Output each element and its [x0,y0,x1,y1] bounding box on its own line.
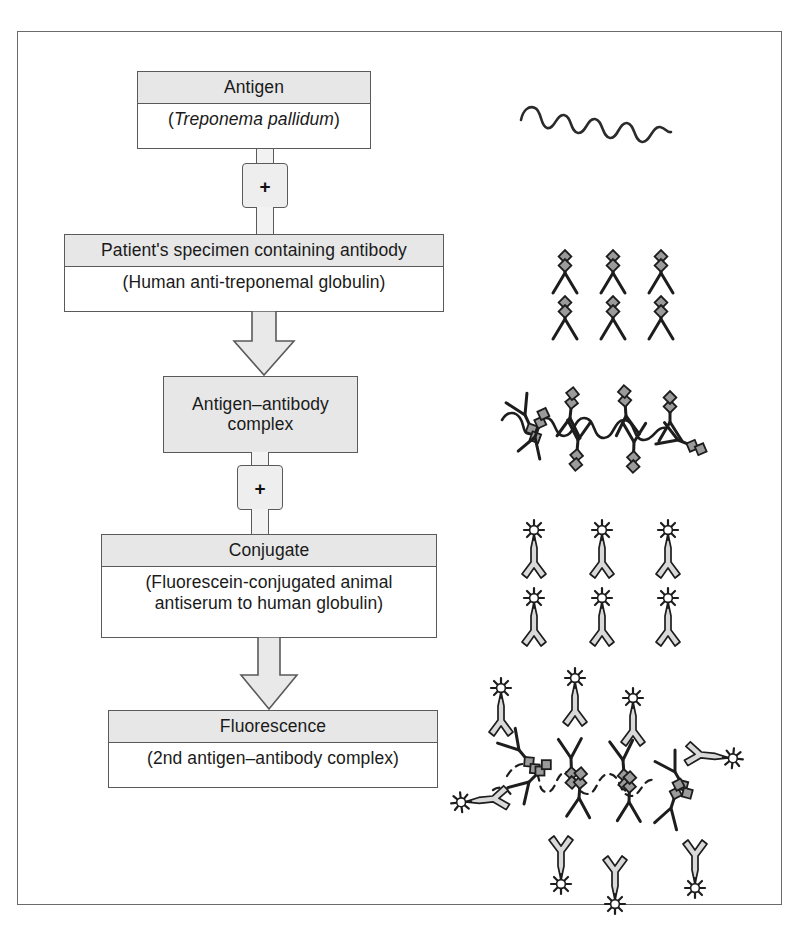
step-box-conjugate: Conjugate (Fluorescein-conjugated animal… [101,534,437,638]
connector-stub-upper-2 [251,452,269,466]
step-title-antigen: Antigen [138,72,370,104]
step-title-complex: Antigen–antibody complex [164,377,357,452]
illustration-spirochete-with-antibodies [478,382,768,492]
step-box-antigen: Antigen (Treponema pallidum) [137,71,371,149]
step-box-complex: Antigen–antibody complex [163,376,358,453]
figure-frame: Antigen (Treponema pallidum) + Patient's… [17,31,782,905]
step-subtitle-fluorescence: (2nd antigen–antibody complex) [109,743,437,775]
illustration-spirochete-wave [513,70,733,150]
step-box-specimen: Patient's specimen containing antibody (… [64,234,444,312]
connector-stub-upper-1 [256,149,274,164]
step-box-fluorescence: Fluorescence (2nd antigen–antibody compl… [108,710,438,788]
illustration-fluorescent-conjugate-six [508,510,718,650]
step-title-fluorescence: Fluorescence [109,711,437,743]
plus-symbol-2: + [254,478,265,499]
figure-root: Antigen (Treponema pallidum) + Patient's… [0,0,799,937]
step-title-complex-line1: Antigen–antibody [192,394,329,414]
illustration-fluorescent-complex [443,650,783,906]
connector-stub-lower-1 [256,207,274,235]
connector-plus-1: + [242,163,288,208]
connector-stub-lower-2 [251,509,269,535]
antigen-subtitle-suffix: ) [334,109,340,129]
step-subtitle-conjugate: (Fluorescein-conjugated animal antiserum… [102,567,436,620]
step-title-conjugate: Conjugate [102,535,436,567]
step-title-complex-line2: complex [228,414,294,434]
conjugate-subtitle-line2: antiserum to human globulin) [106,593,432,614]
connector-arrow-2 [231,637,307,711]
illustration-antibodies-six [543,247,723,347]
step-subtitle-specimen: (Human anti-treponemal globulin) [65,267,443,299]
connector-plus-2: + [237,465,283,510]
connector-arrow-1 [226,311,302,377]
step-title-specimen: Patient's specimen containing antibody [65,235,443,267]
step-subtitle-antigen: (Treponema pallidum) [138,104,370,136]
conjugate-subtitle-line1: (Fluorescein-conjugated animal [106,572,432,593]
plus-symbol-1: + [259,176,270,197]
antigen-species-name: Treponema pallidum [174,109,334,129]
